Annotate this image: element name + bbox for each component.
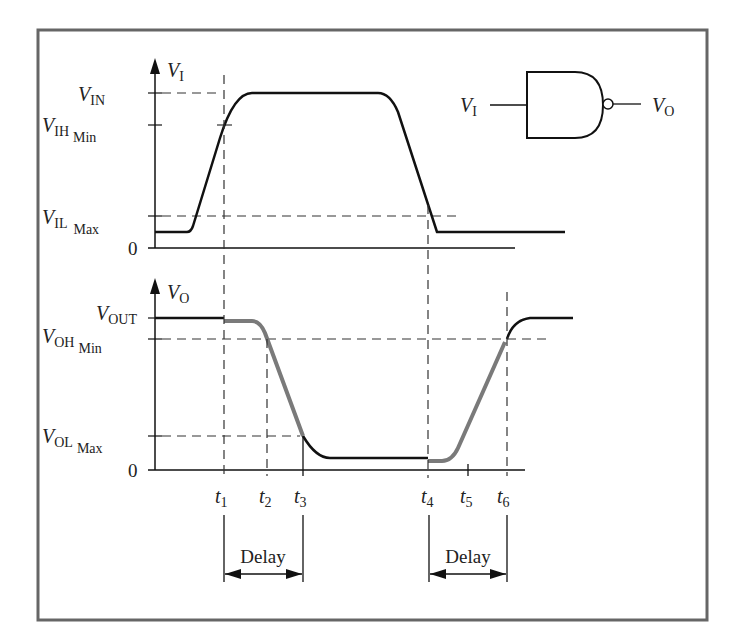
label-vout: VOUT [96,302,137,327]
timing-diagram: VI VIN VIHMin VILMax 0 VI VO VO VOUT [0,0,740,642]
output-axis-label: VO [167,281,189,306]
delay-bracket-2: Delay [429,515,507,582]
nand-gate-symbol: VI VO [460,72,674,138]
label-vih-min: VIHMin [42,114,96,145]
output-axis-arrow-icon [150,278,160,294]
inverter-bubble-icon [603,99,613,109]
label-vin: VIN [78,83,105,108]
label-vol-max: VOLMax [42,425,103,456]
figure-frame [38,30,707,620]
label-vil-max: VILMax [42,206,99,237]
output-rise-transition [428,342,505,461]
t6-label: t6 [497,485,510,510]
gate-output-label: VO [652,94,674,119]
delay2-label: Delay [445,546,491,567]
t1-label: t1 [215,485,228,510]
nand-gate-body-icon [527,72,603,138]
output-plot: VO VOUT VOHMin VOLMax 0 [42,278,573,481]
delay1-label: Delay [240,546,286,567]
input-zero-label: 0 [128,238,138,259]
delay-bracket-1: Delay [224,515,303,582]
output-fall-transition [224,321,303,436]
gate-input-label: VI [460,94,477,119]
output-waveform-high-end [507,318,573,339]
time-markers: t1 t2 t3 t4 t5 t6 [215,75,510,510]
t2-label: t2 [259,485,272,510]
input-axis-arrow-icon [150,58,160,74]
label-voh-min: VOHMin [42,325,102,356]
t3-label: t3 [294,485,307,510]
output-waveform-low [303,436,428,458]
input-waveform [155,93,565,232]
output-zero-label: 0 [128,460,138,481]
t5-label: t5 [460,485,473,510]
input-plot: VI VIN VIHMin VILMax 0 [42,58,565,259]
input-axis-label: VI [167,59,184,84]
t4-label: t4 [421,485,434,510]
